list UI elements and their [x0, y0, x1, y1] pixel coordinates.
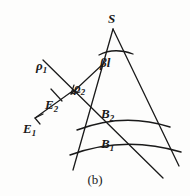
e1-subscript: 1 [32, 128, 36, 138]
label-apex-s: S [108, 12, 115, 25]
figure-caption: (b) [0, 172, 190, 188]
label-rho-2: ρ2 [74, 81, 85, 96]
label-rho-1: ρ1 [36, 59, 47, 74]
e2-subscript: 2 [54, 104, 58, 114]
b1-subscript: 1 [110, 143, 114, 153]
rho2-symbol: ρ [74, 80, 81, 95]
label-point-b1: B1 [101, 137, 114, 152]
label-point-e1: E1 [23, 122, 36, 137]
rho1-subscript: 1 [43, 65, 47, 75]
rho1-symbol: ρ [36, 58, 43, 73]
label-point-e2: E2 [45, 98, 58, 113]
arc-b1 [70, 144, 181, 155]
rho2-subscript: 2 [81, 87, 85, 97]
b2-symbol: B [101, 106, 110, 121]
label-point-b2: B2 [101, 107, 114, 122]
e1-symbol: E [23, 121, 32, 136]
label-angle-beta-l: βl [100, 56, 110, 69]
geometry-diagram [0, 0, 190, 196]
arc-b2 [77, 120, 170, 130]
b2-subscript: 2 [110, 113, 114, 123]
figure-container: S βl ρ1 ρ2 E2 E1 B2 B1 (b) [0, 0, 190, 196]
e2-symbol: E [45, 97, 54, 112]
b1-symbol: B [101, 136, 110, 151]
